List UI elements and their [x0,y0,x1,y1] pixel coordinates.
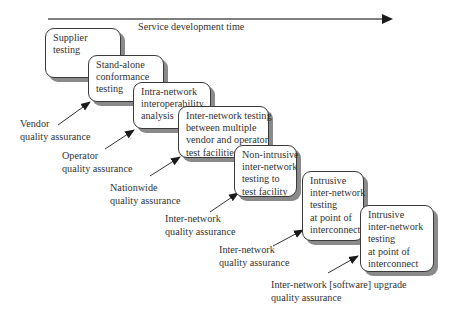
arrow-operator-icon [105,130,134,149]
arrow-upgrade-icon [328,256,358,273]
stage-text: at point of [368,246,433,258]
arrow-internetwork-1-icon [210,193,238,212]
label-line: Nationwide [110,181,180,194]
label-nationwide-quality-assurance: Nationwide quality assurance [110,181,180,207]
label-line: quality assurance [62,162,132,175]
stage-text: test facility [242,186,296,198]
label-line: Inter-network [165,212,235,225]
stage-text: Intra-network [141,86,210,98]
stage-text: interconnect [368,258,433,270]
label-line: quality assurance [165,225,235,238]
stage-text: interconnect [310,224,363,236]
stage-text: inter-network [310,187,363,199]
stage-text: inter-network [368,221,433,233]
stage-text: testing to [242,173,296,185]
stage-text: between multiple [186,122,268,134]
label-line: quality assurance [20,130,90,143]
stage-text: testing [368,233,433,245]
axis-label: Service development time [138,21,244,32]
arrow-nationwide-icon [150,157,180,176]
label-vendor-quality-assurance: Vendor quality assurance [20,117,90,143]
label-line: Inter-network [219,243,289,256]
stage-text: testing [310,199,363,211]
label-line: quality assurance [219,256,289,269]
label-operator-quality-assurance: Operator quality assurance [62,149,132,175]
label-inter-network-quality-assurance-1: Inter-network quality assurance [165,212,235,238]
label-upgrade-quality-assurance: Inter-network [software] upgrade quality… [271,278,407,304]
stage-text: inter-network [242,161,296,173]
stage-text: Supplier [53,32,120,44]
stage-text: Stand-alone [96,59,163,71]
stage-text: at point of [310,212,363,224]
stage-text: Intrusive [310,175,363,187]
stage-text: Non-intrusive [242,149,296,161]
stage-box-intrusive-inter-network-1: Intrusive inter-network testing at point… [302,171,364,241]
stage-text: Inter-network testing [186,110,268,122]
label-line: Inter-network [software] upgrade [271,278,407,291]
stage-box-intrusive-inter-network-2: Intrusive inter-network testing at point… [360,205,434,272]
label-inter-network-quality-assurance-2: Inter-network quality assurance [219,243,289,269]
label-line: Operator [62,149,132,162]
stage-text: Intrusive [368,209,433,221]
label-line: Vendor [20,117,90,130]
label-line: quality assurance [110,194,180,207]
label-line: quality assurance [271,291,407,304]
quality-assurance-diagram: Service development time Supplier testin… [0,0,458,314]
stage-box-non-intrusive-inter-network: Non-intrusive inter-network testing to t… [234,145,297,197]
